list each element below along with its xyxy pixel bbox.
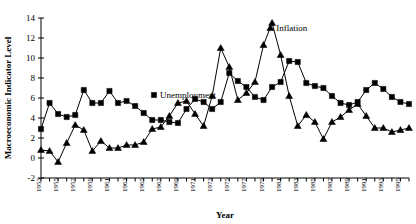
y-axis-tick-label: 10 (26, 53, 36, 63)
x-axis-tick-label: 1981 (275, 178, 283, 193)
series-label-marker-unemployment (151, 92, 156, 97)
data-point-unemployment (124, 98, 129, 103)
data-point-inflation (72, 122, 79, 128)
y-axis-tick-label: -2 (28, 173, 36, 183)
data-point-inflation (320, 136, 327, 142)
data-point-inflation (406, 125, 413, 131)
data-point-unemployment (98, 100, 103, 105)
x-axis-title: Year (216, 210, 234, 220)
x-axis-tick-label: 1983 (292, 178, 300, 193)
data-point-unemployment (141, 110, 146, 115)
data-point-unemployment (38, 126, 43, 131)
data-point-inflation (269, 20, 276, 26)
data-point-unemployment (364, 87, 369, 92)
data-point-unemployment (210, 106, 215, 111)
macroeconomic-indicators-chart: -202468101214195319551957195919611963196… (0, 0, 416, 224)
x-axis-tick-label: 1965 (138, 178, 146, 193)
y-axis-tick-label: 2 (31, 133, 36, 143)
x-axis-tick-label: 1993 (377, 178, 385, 193)
data-point-inflation (217, 45, 224, 51)
x-axis-tick-label: 1967 (155, 178, 163, 193)
x-axis-tick-label: 1971 (189, 178, 197, 193)
data-point-inflation (166, 113, 173, 119)
chart-container: -202468101214195319551957195919611963196… (0, 0, 416, 224)
y-axis-tick-label: 6 (31, 93, 36, 103)
x-axis-tick-label: 1953 (35, 178, 43, 193)
data-point-unemployment (175, 120, 180, 125)
data-point-unemployment (150, 117, 155, 122)
data-point-unemployment (115, 100, 120, 105)
x-axis-tick-label: 1987 (326, 178, 334, 193)
data-point-unemployment (304, 80, 309, 85)
data-point-unemployment (235, 78, 240, 83)
data-point-unemployment (81, 87, 86, 92)
data-point-unemployment (184, 106, 189, 111)
data-point-unemployment (244, 84, 249, 89)
data-point-inflation (251, 79, 258, 85)
data-point-unemployment (261, 97, 266, 102)
data-point-unemployment (338, 100, 343, 105)
data-point-unemployment (47, 100, 52, 105)
data-point-unemployment (287, 58, 292, 63)
y-axis-tick-label: 8 (31, 73, 36, 83)
x-axis-tick-label: 1961 (103, 178, 111, 193)
y-axis-tick-label: 0 (31, 153, 36, 163)
data-point-unemployment (372, 80, 377, 85)
x-axis-tick-label: 1979 (258, 178, 266, 193)
series-line-inflation (41, 23, 409, 162)
data-point-unemployment (56, 111, 61, 116)
series-label-unemployment: Unemployment (160, 90, 216, 100)
data-point-unemployment (269, 84, 274, 89)
series-label-inflation: Inflation (276, 23, 307, 33)
data-point-inflation (80, 127, 87, 133)
x-axis-tick-label: 1991 (360, 178, 368, 193)
data-point-inflation (303, 112, 310, 118)
x-axis-tick-label: 1957 (69, 178, 77, 193)
data-point-unemployment (252, 94, 257, 99)
x-axis-tick-label: 1985 (309, 178, 317, 193)
data-point-unemployment (389, 94, 394, 99)
data-point-inflation (63, 140, 70, 146)
data-point-inflation (226, 64, 233, 70)
x-axis-tick-label: 1963 (121, 178, 129, 193)
x-axis-tick-label: 1969 (172, 178, 180, 193)
data-point-unemployment (64, 114, 69, 119)
data-point-unemployment (406, 101, 411, 106)
data-point-inflation (286, 93, 293, 99)
data-point-unemployment (295, 59, 300, 64)
data-point-unemployment (321, 85, 326, 90)
y-axis-tick-label: 12 (26, 33, 35, 43)
data-point-inflation (329, 119, 336, 125)
y-axis-title: Macroeconomic Indicator Level (3, 36, 13, 159)
y-axis-tick-label: 4 (31, 113, 36, 123)
data-point-inflation (140, 139, 147, 145)
data-point-unemployment (158, 117, 163, 122)
data-point-inflation (277, 52, 284, 58)
x-axis-tick-label: 1989 (343, 178, 351, 193)
data-point-unemployment (329, 93, 334, 98)
data-point-unemployment (312, 83, 317, 88)
data-point-unemployment (381, 86, 386, 91)
x-axis-tick-label: 1973 (206, 178, 214, 193)
x-axis-tick-label: 1959 (86, 178, 94, 193)
data-point-inflation (97, 138, 104, 144)
data-point-unemployment (398, 99, 403, 104)
series-line-unemployment (41, 61, 409, 129)
data-point-unemployment (133, 103, 138, 108)
data-point-inflation (38, 147, 45, 153)
x-axis-tick-label: 1995 (394, 178, 402, 193)
data-point-unemployment (90, 100, 95, 105)
x-axis-tick-label: 1955 (52, 178, 60, 193)
data-point-inflation (192, 111, 199, 117)
data-point-unemployment (73, 112, 78, 117)
data-point-unemployment (107, 88, 112, 93)
data-point-unemployment (167, 119, 172, 124)
x-axis-tick-label: 1975 (223, 178, 231, 193)
data-point-inflation (260, 42, 267, 48)
data-point-unemployment (278, 79, 283, 84)
x-axis-tick-label: 1977 (240, 178, 248, 193)
data-point-unemployment (218, 99, 223, 104)
y-axis-tick-label: 14 (26, 13, 36, 23)
